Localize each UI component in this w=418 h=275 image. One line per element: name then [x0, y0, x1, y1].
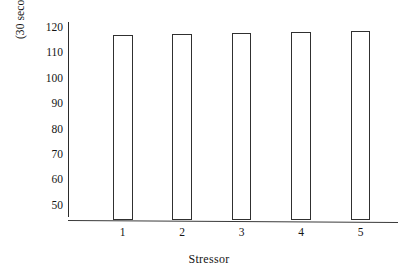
- x-axis-title: Stressor: [0, 252, 418, 267]
- y-axis-tick-label: 60: [52, 173, 64, 185]
- bar-chart-figure: (30 second heart rate) 50607080901001101…: [0, 0, 418, 275]
- bar: [172, 34, 192, 220]
- y-axis-tick-label: 70: [52, 148, 64, 160]
- y-axis-tick-label: 100: [46, 72, 63, 84]
- y-axis-tick-label: 80: [52, 123, 64, 135]
- x-axis-tick-label: 3: [239, 226, 245, 238]
- x-axis-tick-label: 1: [120, 226, 126, 238]
- x-axis-tick-label: 2: [179, 226, 185, 238]
- y-axis-tick-label: 120: [46, 21, 63, 33]
- y-axis-title: (30 second heart rate): [14, 0, 30, 68]
- x-axis-tick-label: 5: [358, 226, 364, 238]
- bar: [291, 32, 311, 220]
- y-axis-tick-label: 50: [52, 199, 64, 211]
- plot-area: 5060708090100110120 12345: [68, 22, 398, 222]
- x-axis-line: [68, 220, 398, 223]
- x-axis-tick-label: 4: [298, 226, 304, 238]
- y-axis-tick-label: 90: [52, 97, 64, 109]
- bar: [232, 33, 252, 220]
- bar: [113, 35, 133, 220]
- y-axis-tick-label: 110: [46, 46, 63, 58]
- y-axis-line: [68, 22, 69, 217]
- bar: [351, 31, 371, 220]
